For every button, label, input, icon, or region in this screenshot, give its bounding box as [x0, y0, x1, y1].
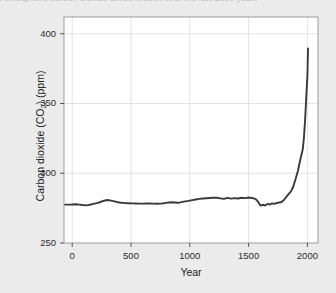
x-axis-tick-label: 1000 — [165, 250, 215, 261]
plot-area-background — [64, 17, 318, 243]
y-axis-tick-label: 350 — [18, 97, 56, 108]
x-axis-title: Year — [64, 266, 318, 278]
y-axis-tick-label: 400 — [18, 28, 56, 39]
y-axis-title: Carbon dioxide (CO2) (ppm) — [34, 36, 46, 236]
x-axis-tick-label: 2000 — [282, 250, 332, 261]
y-axis-title-main: Carbon dioxide (CO — [34, 109, 46, 202]
x-axis-tick-label: 0 — [47, 250, 97, 261]
x-axis-tick-label: 1500 — [224, 250, 274, 261]
y-axis-tick-label: 300 — [18, 167, 56, 178]
y-axis-tick-label: 250 — [18, 237, 56, 248]
x-axis-tick-label: 500 — [106, 250, 156, 261]
co2-chart-figure: Atmospheric carbon dioxide concentration… — [0, 0, 336, 293]
